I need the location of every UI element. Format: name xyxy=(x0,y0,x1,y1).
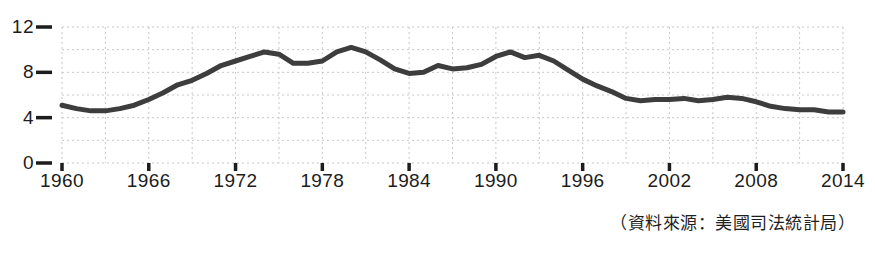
x-tick-label-1978: 1978 xyxy=(282,171,362,191)
x-tick-label-1960: 1960 xyxy=(22,171,102,191)
x-tick-label-1984: 1984 xyxy=(369,171,449,191)
homicide-rate-figure: 04812 1960196619721978198419901996200220… xyxy=(0,0,875,257)
chart-plot-area: 04812 1960196619721978198419901996200220… xyxy=(0,0,875,200)
source-caption: （資料來源：美國司法統計局） xyxy=(0,211,855,235)
x-axis-labels: 1960196619721978198419901996200220082014 xyxy=(0,0,875,200)
x-tick-label-2014: 2014 xyxy=(803,171,875,191)
x-tick-label-1996: 1996 xyxy=(543,171,623,191)
x-tick-label-2002: 2002 xyxy=(629,171,709,191)
x-tick-label-1966: 1966 xyxy=(109,171,189,191)
x-tick-label-2008: 2008 xyxy=(716,171,796,191)
x-tick-label-1990: 1990 xyxy=(456,171,536,191)
x-tick-label-1972: 1972 xyxy=(196,171,276,191)
